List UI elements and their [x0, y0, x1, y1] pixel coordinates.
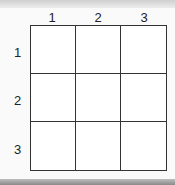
grid-cell-r1c3[interactable] [121, 26, 166, 74]
grid-cell-r3c3[interactable] [121, 122, 166, 170]
column-label-1: 1 [42, 10, 62, 25]
grid-cell-r2c3[interactable] [121, 74, 166, 122]
grid-cell-r2c2[interactable] [76, 74, 121, 122]
row-label-2: 2 [14, 93, 21, 108]
grid-cell-r2c1[interactable] [31, 74, 76, 122]
bottom-shadow-band [0, 179, 175, 185]
grid-cell-r3c2[interactable] [76, 122, 121, 170]
row-label-1: 1 [14, 45, 21, 60]
column-label-3: 3 [134, 10, 154, 25]
grid-cell-r1c2[interactable] [76, 26, 121, 74]
grid-cell-r3c1[interactable] [31, 122, 76, 170]
top-shadow-band [0, 0, 175, 8]
grid-cell-r1c1[interactable] [31, 26, 76, 74]
row-label-3: 3 [14, 142, 21, 157]
grid-3x3 [30, 25, 167, 171]
column-label-2: 2 [88, 10, 108, 25]
